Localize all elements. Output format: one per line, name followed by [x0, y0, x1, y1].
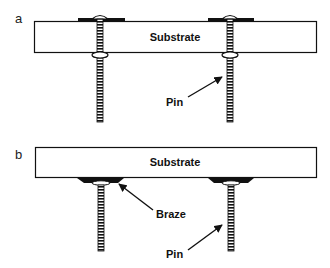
- braze-label: Braze: [156, 208, 186, 220]
- pin-right-b: [208, 178, 254, 251]
- panel-a: a Substrate Pin: [15, 11, 317, 122]
- pin-arrow-b: [188, 225, 222, 250]
- panel-label-b: b: [15, 147, 22, 162]
- pin-label-a: Pin: [166, 96, 183, 108]
- panel-b: b Substrate Braze Pin: [15, 147, 317, 260]
- substrate-label-b: Substrate: [150, 156, 201, 168]
- braze-arrow: [119, 184, 153, 210]
- pin-left-b: [77, 178, 124, 251]
- substrate-label-a: Substrate: [150, 31, 201, 43]
- pin-attachment-diagram: a Substrate Pin b Substrate: [0, 0, 330, 268]
- pin-label-b: Pin: [166, 248, 183, 260]
- panel-label-a: a: [15, 11, 23, 26]
- pin-arrow-a: [188, 77, 222, 97]
